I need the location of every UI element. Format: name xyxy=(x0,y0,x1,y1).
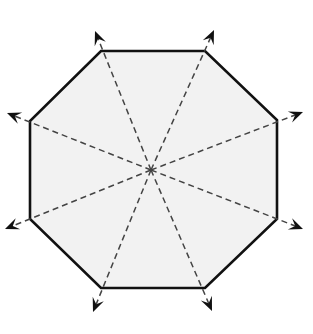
arrow-head-icon xyxy=(288,218,303,229)
arrow-head-icon xyxy=(201,296,212,311)
octagon-diagram xyxy=(0,0,313,334)
arrow-head-icon xyxy=(203,30,214,45)
arrow-head-icon xyxy=(288,111,303,122)
arrow-head-icon xyxy=(93,297,104,312)
diagram-canvas xyxy=(0,0,313,334)
